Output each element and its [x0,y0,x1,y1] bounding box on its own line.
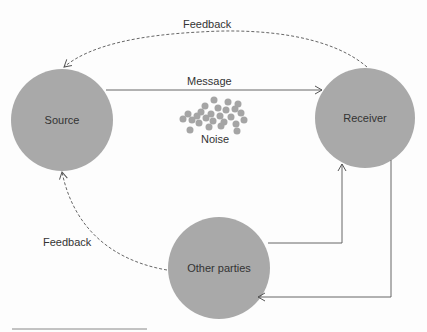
other-to-receiver-edge [268,164,342,243]
message-label: Message [187,75,232,87]
receiver-label: Receiver [343,112,387,124]
feedback-top-label: Feedback [183,18,232,30]
receiver-to-other-edge [258,160,391,297]
noise-label: Noise [201,133,229,145]
feedback-left-edge [62,172,167,270]
feedback-left-label: Feedback [43,236,92,248]
other-parties-label: Other parties [187,262,251,274]
communication-diagram: Feedback Message Noise Source Receiver O… [0,0,427,332]
source-label: Source [45,114,80,126]
noise-cluster [180,97,248,135]
feedback-top-edge [64,31,367,67]
